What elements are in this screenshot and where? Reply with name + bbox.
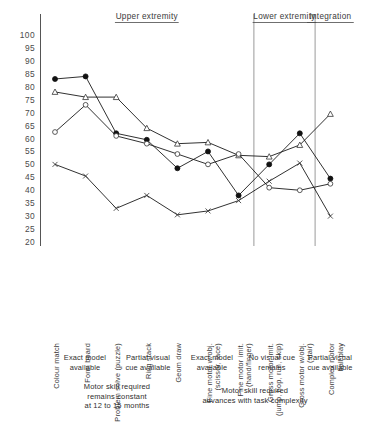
y-axis-tick-label: 60 xyxy=(25,134,35,144)
x-axis-category-label: Geom draw xyxy=(174,342,183,382)
data-point-filled-circle-6 xyxy=(236,193,241,198)
condition-annotation-line: cue available xyxy=(307,363,352,372)
data-point-filled-circle-9 xyxy=(328,176,333,181)
y-axis-tick-label: 70 xyxy=(25,108,35,118)
x-axis-category-label: Colour match xyxy=(52,343,61,389)
data-point-cross-x-8 xyxy=(297,161,302,166)
condition-annotation-line: available xyxy=(70,363,101,372)
y-axis-tick-label: 55 xyxy=(25,146,35,156)
y-axis-tick-label: 85 xyxy=(25,69,35,79)
y-axis-tick-label: 80 xyxy=(25,82,35,92)
data-point-open-circle-1 xyxy=(83,102,88,107)
y-axis-tick-label: 75 xyxy=(25,95,35,105)
data-point-filled-circle-0 xyxy=(53,76,58,81)
data-point-open-circle-5 xyxy=(206,162,211,167)
data-point-open-circle-4 xyxy=(175,152,180,157)
data-point-filled-circle-8 xyxy=(297,131,302,136)
condition-annotation-line: available xyxy=(197,363,228,372)
summary-annotation-line: at 12 to 15 months xyxy=(85,401,150,410)
condition-annotation-line: Exact model xyxy=(191,353,234,362)
series-line-open-circle xyxy=(55,105,330,190)
data-point-open-circle-3 xyxy=(144,141,149,146)
data-point-cross-x-9 xyxy=(328,214,333,219)
chart-figure: 10095908580757065605550454035302520Upper… xyxy=(0,0,368,426)
condition-annotation-line: cue available xyxy=(125,363,170,372)
section-header-label: Integration xyxy=(309,12,351,21)
data-point-filled-circle-7 xyxy=(267,162,272,167)
condition-annotation-line: Partial visual xyxy=(308,353,352,362)
y-axis-tick-label: 20 xyxy=(25,237,35,247)
y-axis-tick-label: 25 xyxy=(25,224,35,234)
y-axis-tick-label: 95 xyxy=(25,43,35,53)
data-point-open-circle-8 xyxy=(297,188,302,193)
condition-annotation-line: remains xyxy=(258,363,285,372)
y-axis-tick-label: 30 xyxy=(25,211,35,221)
y-axis-tick-label: 100 xyxy=(20,30,35,40)
data-point-filled-circle-4 xyxy=(175,166,180,171)
summary-annotation-line: remains constant xyxy=(87,392,147,401)
condition-annotation-line: Partial visual xyxy=(126,353,170,362)
data-point-open-circle-6 xyxy=(236,152,241,157)
data-point-cross-x-7 xyxy=(267,179,272,184)
data-point-cross-x-1 xyxy=(83,174,88,179)
data-point-open-circle-2 xyxy=(114,134,119,139)
data-point-filled-circle-1 xyxy=(83,74,88,79)
y-axis-tick-label: 35 xyxy=(25,198,35,208)
y-axis-tick-label: 65 xyxy=(25,121,35,131)
data-point-open-circle-7 xyxy=(267,185,272,190)
chart-canvas: 10095908580757065605550454035302520Upper… xyxy=(0,0,368,426)
data-point-cross-x-3 xyxy=(144,193,149,198)
x-axis-category-label: (hand/finger) xyxy=(244,343,253,387)
y-axis-tick-label: 90 xyxy=(25,56,35,66)
y-axis-tick-label: 50 xyxy=(25,159,35,169)
data-point-open-circle-9 xyxy=(328,181,333,186)
y-axis-tick-label: 45 xyxy=(25,172,35,182)
summary-annotation-line: advances with task complexity xyxy=(202,396,307,405)
section-header-label: Upper extremity xyxy=(116,12,179,21)
data-point-open-triangle-9 xyxy=(328,111,334,116)
summary-annotation-line: Motor skill required xyxy=(222,386,288,395)
condition-annotation-line: No visual cue xyxy=(249,353,295,362)
data-point-cross-x-2 xyxy=(114,206,119,211)
section-header-label: Lower extremity xyxy=(253,12,316,21)
summary-annotation-line: Motor skill required xyxy=(84,382,150,391)
series-line-filled-circle xyxy=(55,76,330,195)
data-point-cross-x-6 xyxy=(236,198,241,203)
data-point-cross-x-0 xyxy=(53,162,58,167)
y-axis-tick-label: 40 xyxy=(25,185,35,195)
condition-annotation-line: Exact model xyxy=(64,353,107,362)
series-line-open-triangle xyxy=(55,92,330,157)
data-point-open-circle-0 xyxy=(53,130,58,135)
data-point-open-triangle-0 xyxy=(52,89,58,94)
data-point-filled-circle-5 xyxy=(206,149,211,154)
